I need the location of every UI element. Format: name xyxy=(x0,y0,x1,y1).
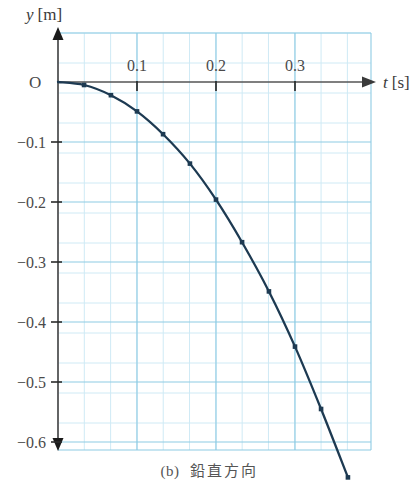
data-point-marker xyxy=(135,109,140,114)
y-tick-label: −0.1 xyxy=(17,134,46,151)
t-axis-label: t[s] xyxy=(383,73,410,92)
grid-minor-lines xyxy=(58,33,371,450)
y-axis-arrowhead-down xyxy=(53,438,64,451)
data-point-marker xyxy=(109,93,114,98)
y-tick-label: −0.5 xyxy=(17,374,46,391)
y-tick-labels: −0.1−0.2−0.3−0.4−0.5−0.6 xyxy=(17,134,46,451)
caption-label: (b) xyxy=(161,463,180,479)
data-point-marker xyxy=(82,83,87,88)
x-tick-label: 0.3 xyxy=(285,57,305,74)
y-axis-label-var: y xyxy=(24,5,34,24)
data-curve xyxy=(58,82,348,477)
t-axis-label-var: t xyxy=(383,73,389,92)
figure-caption: (b)鉛直方向 xyxy=(0,459,418,480)
data-point-marker xyxy=(267,289,272,294)
x-tick-label: 0.1 xyxy=(127,57,147,74)
grid-major-lines xyxy=(58,33,371,450)
y-tick-label: −0.4 xyxy=(17,314,46,331)
y-axis-label: y[m] xyxy=(24,5,62,24)
t-axis-arrowhead xyxy=(362,77,376,88)
data-point-marker xyxy=(161,132,166,137)
data-point-marker xyxy=(319,407,324,412)
origin-label: O xyxy=(29,73,41,92)
t-axis-label-unit: [s] xyxy=(392,73,410,92)
x-tick-labels: 0.10.20.3 xyxy=(127,57,305,74)
y-tick-label: −0.6 xyxy=(17,434,46,451)
chart-canvas: 0.10.20.3 −0.1−0.2−0.3−0.4−0.5−0.6 O y[m… xyxy=(0,0,418,490)
y-axis-label-unit: [m] xyxy=(38,5,63,24)
x-tick-label: 0.2 xyxy=(206,57,226,74)
y-tick-label: −0.3 xyxy=(17,254,46,271)
data-point-marker xyxy=(240,240,245,245)
y-tick-label: −0.2 xyxy=(17,194,46,211)
caption-text: 鉛直方向 xyxy=(190,463,258,479)
data-point-marker xyxy=(188,161,193,166)
figure-vertical-motion-graph: 0.10.20.3 −0.1−0.2−0.3−0.4−0.5−0.6 O y[m… xyxy=(0,0,418,490)
data-point-marker xyxy=(214,197,219,202)
data-point-marker xyxy=(293,344,298,349)
